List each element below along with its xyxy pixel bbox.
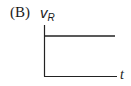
plot-area xyxy=(0,0,131,86)
